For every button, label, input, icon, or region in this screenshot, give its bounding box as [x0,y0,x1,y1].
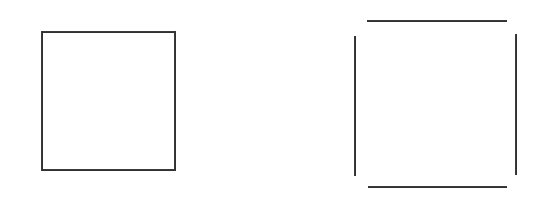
figure-canvas [0,0,543,200]
open-square-figure [0,0,543,200]
open-square-right-segment [515,34,517,175]
open-square-bottom-segment [368,186,507,188]
open-square-left-segment [354,36,356,176]
open-square-top-segment [367,20,507,22]
